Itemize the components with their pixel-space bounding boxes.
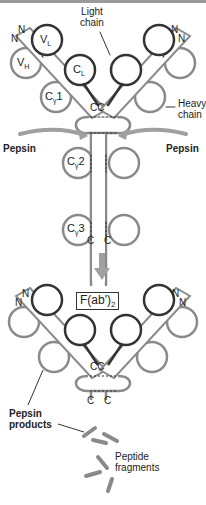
c-terminus-label: C: [104, 395, 111, 406]
light-chain-label: Light chain: [80, 6, 104, 28]
n-terminus-label: N: [178, 33, 185, 44]
cg3-label: Cγ3: [67, 222, 85, 236]
pepsin-products-label: Pepsin products: [9, 408, 52, 430]
c-terminus-label: C: [87, 395, 94, 406]
n-terminus-label: N: [18, 24, 25, 35]
cg1-label: Cγ1: [45, 90, 63, 104]
hinge-disulfide-label: CC: [90, 102, 104, 113]
top-antibody: [11, 25, 195, 285]
cl-label: CL: [73, 63, 85, 77]
hinge-disulfide-label: CC: [90, 361, 104, 372]
pepsin-left-label: Pepsin: [3, 143, 36, 154]
pepsin-right-label: Pepsin: [166, 143, 199, 154]
n-terminus-label: N: [22, 288, 29, 299]
heavy-chain-label: Heavy chain: [178, 98, 206, 120]
vl-label: VL: [40, 33, 51, 47]
c-terminus-label: C: [87, 235, 94, 246]
peptide-fragments: [84, 428, 117, 491]
antibody-pepsin-digestion-diagram: Light chain N N N N VL VH CL Cγ1 CC Heav…: [0, 0, 206, 505]
cg2-label: Cγ2: [67, 155, 85, 169]
cg3-domain-right: [109, 215, 139, 245]
peptide-fragments-label: Peptide fragments: [115, 451, 159, 473]
n-terminus-label: N: [15, 297, 22, 308]
fab2-label: F(ab')2: [76, 292, 119, 310]
n-terminus-label: N: [11, 33, 18, 44]
n-terminus-label: N: [179, 297, 186, 308]
c-terminus-label: C: [104, 235, 111, 246]
vh-label: VH: [17, 56, 29, 70]
cg2-domain-right: [109, 148, 139, 178]
cl-domain-right: [111, 55, 141, 85]
